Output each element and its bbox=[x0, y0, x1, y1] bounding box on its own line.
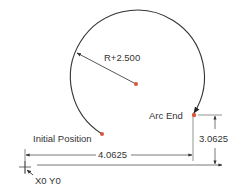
initial-position-point bbox=[100, 132, 104, 136]
origin-label: X0 Y0 bbox=[35, 175, 61, 186]
arc-end-label: Arc End bbox=[149, 110, 183, 121]
origin-pointer bbox=[27, 170, 33, 175]
arc-end-point bbox=[192, 113, 196, 117]
tool-path-arc bbox=[70, 10, 204, 134]
center-point bbox=[134, 82, 138, 86]
horizontal-dim-label: 4.0625 bbox=[98, 149, 127, 160]
vertical-dim-label: 3.0625 bbox=[199, 133, 228, 144]
arc-diagram: R+2.500 Arc End Initial Position 4.0625 … bbox=[0, 0, 243, 194]
initial-position-label: Initial Position bbox=[33, 133, 92, 144]
radius-label: R+2.500 bbox=[104, 52, 140, 63]
